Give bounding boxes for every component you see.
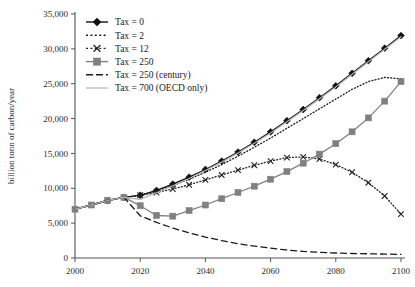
y-axis-title: billion tonn of carbon/year xyxy=(6,88,16,184)
series-marker-3 xyxy=(333,141,339,147)
series-marker-3 xyxy=(268,176,274,182)
series-marker-3 xyxy=(219,196,225,202)
series-marker-3 xyxy=(186,208,192,214)
legend-label-1: Tax = 2 xyxy=(115,31,144,41)
legend-label-3: Tax = 250 xyxy=(115,57,154,67)
series-marker-3 xyxy=(300,160,306,166)
series-marker-3 xyxy=(398,79,404,85)
series-marker-2 xyxy=(349,169,355,175)
series-marker-3 xyxy=(317,151,323,157)
legend-marker-3 xyxy=(93,58,100,65)
legend-label-0: Tax = 0 xyxy=(115,17,144,27)
y-tick-label: 0 xyxy=(64,253,69,263)
x-tick-label: 2040 xyxy=(196,266,215,276)
y-tick-label: 20,000 xyxy=(43,114,68,124)
legend-label-4: Tax = 250 (century) xyxy=(115,70,191,81)
series-marker-3 xyxy=(365,115,371,121)
legend-item-3: Tax = 250 xyxy=(86,57,154,67)
legend-label-2: Tax = 12 xyxy=(115,44,149,54)
legend-item-2: Tax = 12 xyxy=(86,44,149,54)
y-tick-label: 30,000 xyxy=(43,44,68,54)
chart-figure: 05,00010,00015,00020,00025,00030,00035,0… xyxy=(0,0,415,287)
series-line-4 xyxy=(75,197,401,254)
x-tick-label: 2080 xyxy=(327,266,346,276)
series-marker-3 xyxy=(170,213,176,219)
series-marker-3 xyxy=(137,203,143,209)
y-tick-label: 5,000 xyxy=(48,218,69,228)
y-tick-label: 10,000 xyxy=(43,183,68,193)
x-tick-label: 2020 xyxy=(131,266,150,276)
series-marker-2 xyxy=(219,172,225,178)
x-tick-label: 2060 xyxy=(262,266,281,276)
x-tick-label: 2100 xyxy=(392,266,411,276)
y-tick-label: 25,000 xyxy=(43,79,68,89)
series-marker-3 xyxy=(202,202,208,208)
series-marker-2 xyxy=(382,193,388,199)
legend-label-5: Tax = 700 (OECD only) xyxy=(115,83,207,94)
series-marker-3 xyxy=(154,212,160,218)
series-marker-2 xyxy=(366,180,372,186)
legend-item-1: Tax = 2 xyxy=(86,31,144,41)
series-marker-3 xyxy=(235,189,241,195)
legend-item-5: Tax = 700 (OECD only) xyxy=(86,83,207,94)
series-marker-3 xyxy=(349,129,355,135)
y-tick-label: 15,000 xyxy=(43,149,68,159)
x-tick-label: 2000 xyxy=(66,266,85,276)
series-line-2 xyxy=(75,157,401,214)
y-tick-label: 35,000 xyxy=(43,9,68,19)
series-marker-3 xyxy=(251,183,257,189)
legend-item-0: Tax = 0 xyxy=(86,17,144,27)
line-chart: 05,00010,00015,00020,00025,00030,00035,0… xyxy=(0,0,415,287)
legend-item-4: Tax = 250 (century) xyxy=(86,70,191,81)
series-marker-3 xyxy=(382,98,388,104)
legend-marker-0 xyxy=(93,18,101,26)
series-marker-3 xyxy=(284,169,290,175)
series-marker-2 xyxy=(398,211,404,217)
